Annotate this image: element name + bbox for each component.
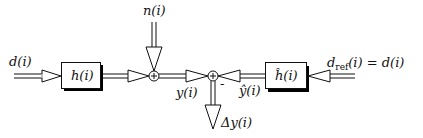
summer-1 bbox=[149, 71, 159, 81]
arrow-noise-to-sum1 bbox=[146, 22, 162, 71]
label-output-y: y(i) bbox=[175, 85, 198, 100]
diagram-canvas: d(i) h(i) n(i) y(i) - ŷ(i) ĥ(i) dref(i) … bbox=[0, 0, 423, 138]
arrow-sum2-to-error bbox=[205, 81, 221, 129]
arrow-h-to-sum1 bbox=[103, 70, 149, 82]
arrow-hhat-to-sum2 bbox=[218, 70, 265, 82]
label-noise-n: n(i) bbox=[143, 3, 166, 18]
arrow-sum1-to-sum2 bbox=[159, 70, 208, 82]
label-block-h: h(i) bbox=[71, 68, 94, 83]
label-input-d: d(i) bbox=[9, 54, 32, 69]
label-block-hhat: ĥ(i) bbox=[275, 68, 298, 83]
input-arrow-d bbox=[14, 70, 61, 82]
minus-sign: - bbox=[220, 76, 224, 91]
block-diagram: d(i) h(i) n(i) y(i) - ŷ(i) ĥ(i) dref(i) … bbox=[0, 0, 423, 138]
label-reference-dref: dref(i) = d(i) bbox=[327, 55, 404, 72]
label-error-deltay: Δy(i) bbox=[220, 115, 252, 130]
label-estimate-yhat: ŷ(i) bbox=[238, 83, 261, 98]
